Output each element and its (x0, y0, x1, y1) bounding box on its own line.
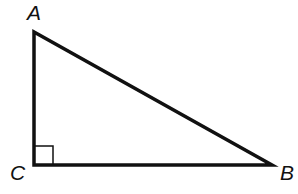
triangle-diagram: A C B (0, 0, 298, 194)
triangle-abc (34, 32, 272, 165)
vertex-label-a: A (25, 1, 41, 24)
right-angle-marker (34, 146, 53, 165)
vertex-label-c: C (10, 161, 26, 184)
vertex-label-b: B (280, 161, 294, 184)
